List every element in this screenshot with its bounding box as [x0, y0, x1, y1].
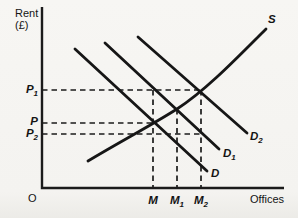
- quantity-m1-label-text: M: [170, 194, 180, 206]
- demand-d1-label: D1: [223, 147, 236, 159]
- demand-curve-d2: [138, 37, 247, 133]
- price-p1-label-sub: 1: [34, 89, 38, 98]
- price-p2-label-sub: 2: [34, 133, 38, 142]
- y-axis-title-line2: (£): [15, 19, 38, 31]
- price-p-label-text: P: [30, 115, 38, 127]
- supply-curve-label: S: [268, 13, 276, 25]
- demand-d-label-text: D: [211, 167, 219, 179]
- quantity-m1-label: M1: [168, 194, 186, 206]
- demand-d1-label-sub: 1: [231, 153, 235, 162]
- price-p-label: P: [20, 115, 38, 127]
- origin-label: O: [28, 192, 37, 204]
- demand-d-label: D: [211, 167, 219, 179]
- price-p1-label: P1: [20, 83, 38, 95]
- y-axis-title-line1: Rent: [15, 7, 38, 19]
- quantity-m-label-text: M: [148, 194, 158, 206]
- quantity-m2-label-sub: 2: [204, 200, 208, 209]
- quantity-m1-label-sub: 1: [180, 200, 184, 209]
- y-axis-title: Rent (£): [15, 7, 38, 31]
- price-p1-label-text: P: [26, 83, 34, 95]
- demand-d2-label: D2: [250, 130, 263, 142]
- price-p2-label-text: P: [26, 127, 34, 139]
- quantity-m-label: M: [145, 194, 161, 206]
- supply-demand-diagram: Rent (£) Offices O S D D1 D2 P1 P P2 M M…: [0, 0, 298, 218]
- diagram-canvas: [0, 0, 298, 218]
- quantity-m2-label-text: M: [194, 194, 204, 206]
- demand-curve-d: [75, 49, 207, 171]
- price-p2-label: P2: [20, 127, 38, 139]
- quantity-m2-label: M2: [192, 194, 210, 206]
- x-axis-title: Offices: [250, 193, 284, 205]
- supply-curve-label-text: S: [268, 13, 276, 25]
- demand-d2-label-sub: 2: [258, 136, 262, 145]
